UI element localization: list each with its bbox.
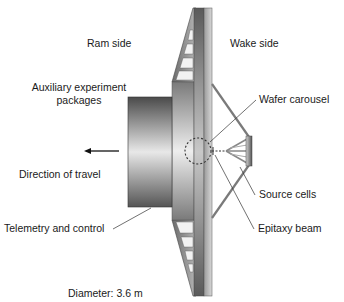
source-cells-fixture [226, 136, 252, 166]
auxiliary-cylinder [128, 97, 172, 207]
source-cells-label: Source cells [259, 188, 316, 200]
epitaxy-beam-label: Epitaxy beam [258, 222, 322, 234]
diameter-label: Diameter: 3.6 m [68, 287, 143, 299]
wake-side-label: Wake side [230, 37, 279, 49]
auxiliary-packages-label-line1: Auxiliary experiment [24, 81, 134, 93]
direction-arrow [84, 148, 119, 154]
direction-of-travel-label: Direction of travel [19, 168, 101, 180]
shield-plate-front [194, 8, 204, 296]
telemetry-control-label: Telemetry and control [4, 222, 104, 234]
auxiliary-packages-label-line2: packages [24, 94, 134, 106]
shoulder-panel [172, 82, 194, 220]
wake-shield-drawing [0, 0, 344, 302]
ram-side-label: Ram side [87, 37, 131, 49]
upper-truss [172, 8, 196, 82]
wafer-carousel-label: Wafer carousel [259, 93, 329, 105]
lower-truss [172, 220, 196, 296]
